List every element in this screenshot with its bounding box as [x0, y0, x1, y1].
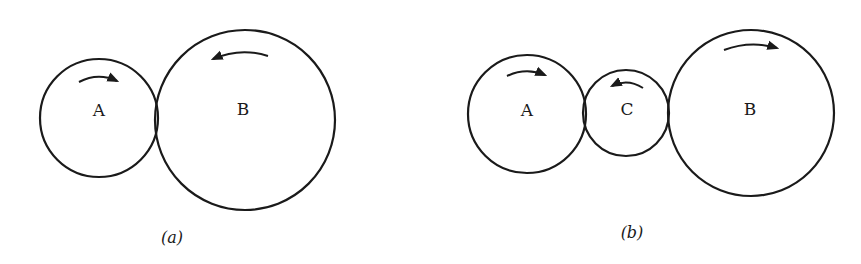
gear-b: B	[155, 30, 335, 210]
gear-label: B	[237, 99, 250, 119]
gear-c: C	[583, 70, 669, 156]
counterclockwise-arrow-icon	[213, 52, 268, 59]
counterclockwise-arrow-icon	[612, 82, 643, 88]
gear-label: B	[744, 99, 757, 119]
gear-a: A	[468, 55, 586, 173]
gear-label: A	[520, 100, 534, 120]
clockwise-arrow-icon	[507, 71, 545, 76]
figure-a: AB(a)	[40, 30, 335, 247]
clockwise-arrow-icon	[79, 77, 117, 82]
figure-caption: (b)	[621, 223, 644, 242]
gear-train-diagram: AB(a)ACB(b)	[0, 0, 861, 264]
gear-b: B	[668, 30, 834, 196]
clockwise-arrow-icon	[724, 44, 777, 50]
gear-circle	[155, 30, 335, 210]
figure-b: ACB(b)	[468, 30, 834, 242]
gear-a: A	[40, 59, 158, 177]
gear-label: C	[620, 99, 633, 119]
figure-caption: (a)	[161, 228, 183, 247]
gear-label: A	[92, 100, 106, 120]
